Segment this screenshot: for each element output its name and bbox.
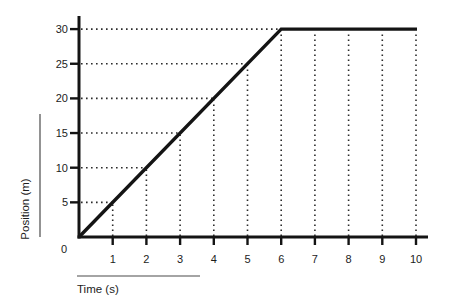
y-tick-label: 20 — [56, 92, 68, 104]
x-tick-label: 4 — [211, 253, 217, 265]
x-tick-label: 6 — [278, 253, 284, 265]
y-tick-label: 30 — [56, 23, 68, 35]
x-tick-label: 1 — [110, 253, 116, 265]
x-tick-label: 2 — [143, 253, 149, 265]
y-tick-label: 25 — [56, 58, 68, 70]
y-tick-label: 5 — [62, 196, 68, 208]
x-tick-label: 8 — [346, 253, 352, 265]
x-tick-label: 5 — [244, 253, 250, 265]
y-tick-label: 10 — [56, 162, 68, 174]
y-tick-label: 15 — [56, 127, 68, 139]
y-axis-label: Position (m) — [19, 178, 31, 240]
x-axis-label: Time (s) — [77, 283, 119, 295]
x-tick-label: 3 — [177, 253, 183, 265]
x-tick-label: 10 — [410, 253, 422, 265]
tick-labels: 1234567891051015202530 — [56, 23, 422, 265]
x-tick-label: 7 — [312, 253, 318, 265]
position-time-graph: 1234567891051015202530 0 Position (m) Ti… — [0, 0, 450, 308]
chart-canvas: 1234567891051015202530 0 Position (m) Ti… — [0, 0, 450, 308]
x-tick-label: 9 — [379, 253, 385, 265]
dotted-gridlines — [81, 29, 416, 236]
axes — [78, 16, 429, 239]
axis-ticks — [70, 29, 416, 245]
origin-label: 0 — [61, 243, 67, 255]
